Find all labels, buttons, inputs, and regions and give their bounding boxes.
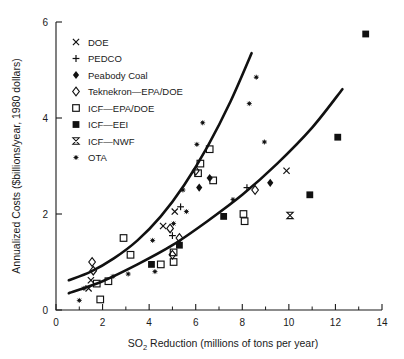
data-point: [97, 296, 104, 303]
data-point: [170, 259, 177, 266]
legend-label: ICF—EEI: [88, 119, 128, 130]
data-point: [150, 238, 155, 243]
data-point: [127, 252, 134, 259]
data-point: [362, 31, 369, 38]
data-point: [152, 269, 157, 274]
data-point: [334, 134, 341, 141]
y-tick-label: 2: [42, 209, 48, 220]
y-tick-label: 6: [42, 17, 48, 28]
scatter-plot-svg: 024681012140246 DOEPEDCOPeabody CoalTekn…: [0, 0, 404, 359]
data-point: [148, 261, 155, 268]
data-point: [177, 203, 184, 210]
data-point: [160, 223, 166, 229]
data-point: [230, 197, 235, 202]
data-point: [172, 209, 178, 215]
legend-marker-plus-icon: [73, 55, 80, 62]
data-point: [167, 224, 174, 233]
data-point: [157, 261, 164, 268]
y-axis-title: Annualized Costs ($billions/year, 1980 d…: [10, 58, 22, 273]
data-point: [262, 140, 267, 145]
legend-label: ICF—NWF: [88, 136, 135, 147]
x-tick-label: 8: [240, 317, 246, 328]
data-point: [240, 211, 247, 218]
data-point: [194, 142, 199, 147]
legend-label: ICF—EPA/DOE: [88, 103, 154, 114]
data-point: [306, 191, 313, 198]
legend-marker-filled-diamond-icon: [73, 71, 79, 79]
legend-label: DOE: [88, 37, 109, 48]
x-tick-label: 14: [376, 317, 388, 328]
legend-marker-bowtie-icon: [73, 138, 79, 144]
data-point: [180, 188, 185, 193]
x-tick-label: 2: [100, 317, 106, 328]
legend-marker-filled-square-icon: [73, 121, 80, 128]
data-point: [120, 235, 127, 242]
x-tick-label: 0: [53, 317, 59, 328]
data-point: [287, 212, 293, 218]
y-tick-label: 4: [42, 113, 48, 124]
chart-figure: 024681012140246 DOEPEDCOPeabody CoalTekn…: [0, 0, 404, 359]
series-doe: [86, 168, 290, 292]
y-tick-label: 0: [42, 305, 48, 316]
x-axis-title: SO2 Reduction (millions of tons per year…: [128, 337, 318, 352]
x-tick-label: 6: [193, 317, 199, 328]
data-point: [200, 120, 205, 125]
data-point: [267, 179, 273, 187]
data-point: [283, 168, 289, 174]
data-point: [247, 101, 252, 106]
legend-label: Peabody Coal: [88, 70, 148, 81]
legend-label: PEDCO: [88, 53, 122, 64]
legend-marker-open-diamond-icon: [73, 87, 80, 96]
data-point: [184, 209, 189, 214]
legend-marker-star-icon: [74, 155, 79, 160]
series-pedco: [169, 184, 250, 239]
data-point: [220, 213, 227, 220]
x-tick-label: 4: [146, 317, 152, 328]
data-point: [176, 242, 183, 249]
x-tick-label: 12: [330, 317, 342, 328]
data-point: [254, 75, 259, 80]
chart-legend: DOEPEDCOPeabody CoalTeknekron—EPA/DOEICF…: [73, 37, 183, 164]
legend-label: OTA: [88, 152, 107, 163]
legend-label: Teknekron—EPA/DOE: [88, 86, 183, 97]
data-point: [111, 274, 116, 279]
data-point: [89, 258, 96, 267]
data-point: [81, 286, 86, 291]
x-tick-label: 10: [283, 317, 295, 328]
legend-marker-open-square-icon: [73, 105, 80, 112]
data-point: [196, 184, 202, 192]
data-point: [126, 272, 131, 277]
data-point: [77, 298, 82, 303]
data-point: [171, 221, 176, 226]
data-point: [241, 218, 248, 225]
legend-marker-x-icon: [73, 39, 79, 45]
series-icf-nwf: [287, 212, 293, 218]
series-icf-eei: [148, 31, 369, 268]
